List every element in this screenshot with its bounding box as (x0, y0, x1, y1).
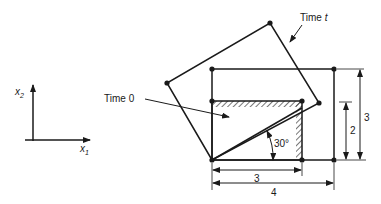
top-edge-hatching (213, 101, 302, 107)
time-t-leader (290, 25, 302, 42)
deformation-diagram: x2 x1 30° Time 0 Time t 3 4 (0, 0, 381, 204)
dim-height-large-label: 3 (364, 112, 370, 123)
dim-width-small-label: 3 (254, 173, 260, 184)
dim-height-small-label: 2 (350, 125, 356, 136)
large-rectangle (212, 69, 334, 160)
angle-label: 30° (274, 138, 289, 149)
angle-arc (267, 131, 273, 160)
time-t-label: Time t (300, 12, 329, 23)
dim-width-large-label: 4 (271, 187, 277, 198)
time0-label: Time 0 (104, 93, 135, 104)
time0-rectangle (212, 101, 302, 160)
vertex-points (164, 20, 336, 162)
coordinate-axes: x2 x1 (14, 85, 90, 156)
x1-axis-label: x1 (79, 143, 89, 156)
x2-axis-label: x2 (14, 86, 24, 99)
